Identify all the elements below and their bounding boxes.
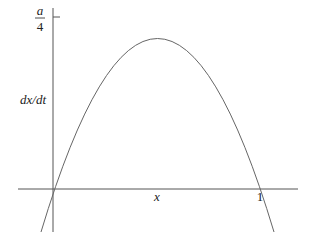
y-tick-numerator: a [37, 3, 44, 18]
graph-canvas: a 4 dx/dt x 1 [0, 0, 312, 244]
y-axis-label: dx/dt [20, 92, 46, 107]
x-tick-label: 1 [257, 189, 264, 204]
x-axis-label: x [153, 189, 160, 204]
y-tick-denominator: 4 [37, 19, 44, 34]
phase-diagram: a 4 dx/dt x 1 [0, 0, 312, 244]
